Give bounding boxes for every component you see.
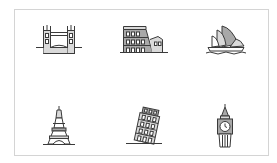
big-ben-icon [214,104,236,148]
tower-bridge-icon [36,24,82,56]
eiffel-tower-icon [42,106,76,148]
leaning-tower-icon [126,106,162,146]
colosseum-icon [120,26,168,54]
opera-house-icon [206,22,246,56]
